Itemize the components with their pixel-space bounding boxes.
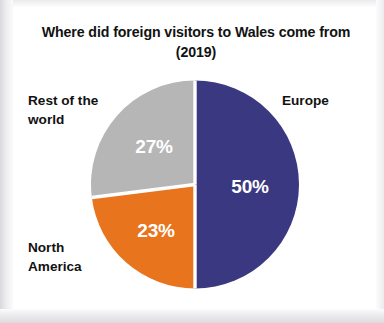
chart-title: Where did foreign visitors to Wales come… xyxy=(22,22,370,62)
chart-figure: Where did foreign visitors to Wales come… xyxy=(0,0,384,323)
chart-title-line-2: (2019) xyxy=(176,44,216,60)
chart-title-line-1: Where did foreign visitors to Wales come… xyxy=(42,24,351,40)
pie-label-north-america: North America xyxy=(28,238,82,277)
pie-label-rest-of-world: Rest of the world xyxy=(28,91,98,130)
pie-value-rest-of-world: 27% xyxy=(126,136,182,158)
pie-value-north-america: 23% xyxy=(128,220,184,242)
pie-value-europe: 50% xyxy=(222,176,278,198)
pie-label-europe: Europe xyxy=(282,91,329,110)
page-edge-right xyxy=(376,0,384,323)
page-edge-top xyxy=(0,0,384,7)
page-edge-left xyxy=(0,0,13,323)
page-edge-bottom xyxy=(0,309,384,323)
